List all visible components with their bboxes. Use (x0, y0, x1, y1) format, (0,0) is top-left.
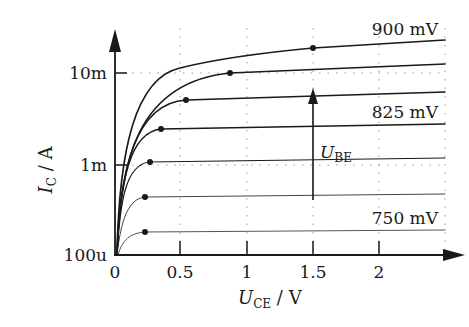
dot-850mv (183, 97, 189, 103)
dot-900mv (310, 45, 316, 51)
y-tick-label-100u: 100u (64, 245, 107, 265)
x-tick-label-05: 0.5 (166, 262, 193, 282)
ube-label-symbol: U (320, 142, 335, 162)
y-axis-arrow-icon (109, 29, 121, 52)
curve-800mv (117, 158, 445, 255)
y-axis-label-group: IC / A (35, 146, 59, 195)
curve-label-825mv: 825 mV (372, 102, 439, 122)
ube-arrow (308, 88, 318, 200)
y-axis-label-subscript: C (45, 177, 59, 186)
curve-label-900mv: 900 mV (372, 19, 439, 39)
x-axis-label-subscript: CE (253, 297, 271, 311)
ube-label-subscript: BE (334, 151, 352, 165)
ube-label: UBE (320, 142, 352, 165)
x-axis-label-unit: / V (271, 287, 303, 308)
y-axis-label-unit: / A (35, 146, 56, 178)
curve-825mv (117, 124, 445, 255)
x-tick-label-1: 1 (242, 262, 253, 282)
dot-750mv (142, 229, 148, 235)
dot-775mv (142, 194, 148, 200)
x-axis-label: UCE / V (238, 287, 303, 311)
knee-dots (142, 45, 316, 235)
x-tick-label-15: 1.5 (299, 262, 326, 282)
y-tick-label-10m: 10m (69, 63, 107, 83)
x-tick-label-2: 2 (374, 262, 385, 282)
y-axis-label: IC / A (35, 146, 59, 195)
x-tick-label-0: 0 (110, 262, 121, 282)
dot-800mv (147, 159, 153, 165)
dot-875mv (227, 70, 233, 76)
y-tick-label-1m: 1m (80, 155, 107, 175)
x-axis-label-symbol: U (238, 287, 254, 308)
curve-label-750mv: 750 mV (372, 208, 439, 228)
dot-825mv (158, 126, 164, 132)
chart: 10m 1m 100u 0 0.5 1 1.5 2 900 mV 825 mV … (0, 0, 469, 327)
curve-750mv (118, 230, 445, 255)
x-axis-arrow-icon (443, 249, 465, 261)
